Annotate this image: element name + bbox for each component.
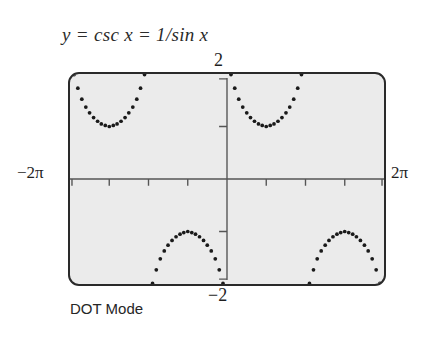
- data-point: [249, 116, 253, 120]
- x-axis-max-label: 2π: [391, 163, 408, 183]
- data-point: [190, 231, 194, 235]
- data-point: [205, 243, 209, 247]
- data-point: [296, 86, 300, 90]
- data-point: [323, 243, 327, 247]
- data-point: [186, 230, 190, 234]
- data-point: [166, 243, 170, 247]
- data-point: [88, 111, 92, 115]
- data-point: [264, 125, 268, 129]
- data-point: [213, 257, 217, 261]
- data-point: [272, 122, 276, 126]
- data-point: [115, 122, 119, 126]
- data-point: [260, 124, 264, 128]
- data-point: [229, 74, 233, 76]
- data-point: [111, 124, 115, 128]
- data-point: [217, 268, 221, 272]
- data-point: [92, 116, 96, 120]
- data-point: [257, 122, 261, 126]
- data-point: [198, 235, 202, 239]
- series-1: [151, 230, 225, 284]
- data-point: [315, 257, 319, 261]
- data-point: [72, 74, 76, 76]
- data-point: [162, 249, 166, 253]
- data-point: [182, 231, 186, 235]
- data-point: [359, 239, 363, 243]
- data-point: [96, 119, 100, 123]
- data-point: [370, 257, 374, 261]
- data-point: [194, 232, 198, 236]
- data-point: [151, 282, 155, 284]
- data-point: [139, 86, 143, 90]
- data-point: [221, 282, 225, 284]
- data-point: [233, 86, 237, 90]
- data-point: [99, 122, 103, 126]
- data-point: [241, 105, 245, 109]
- plot-area: [70, 74, 384, 284]
- data-point: [347, 231, 351, 235]
- data-point: [268, 124, 272, 128]
- data-point: [374, 268, 378, 272]
- y-axis-min-label: −2: [208, 285, 227, 306]
- data-point: [84, 105, 88, 109]
- data-point: [158, 257, 162, 261]
- data-point: [135, 97, 139, 101]
- x-axis-min-text: −2π: [17, 163, 44, 182]
- data-point: [245, 111, 249, 115]
- figure-container: y = csc x = 1/sin x −2π 2π 2 −2 DOT Mode: [0, 0, 435, 338]
- data-point: [343, 230, 347, 234]
- data-point: [237, 97, 241, 101]
- mode-caption: DOT Mode: [70, 300, 143, 317]
- data-point: [366, 249, 370, 253]
- data-point: [288, 105, 292, 109]
- data-point: [292, 97, 296, 101]
- data-point: [123, 116, 127, 120]
- data-point: [178, 232, 182, 236]
- data-point: [276, 119, 280, 123]
- data-point: [363, 243, 367, 247]
- data-point: [284, 111, 288, 115]
- calculator-screen: [68, 72, 386, 286]
- data-point: [327, 239, 331, 243]
- data-point: [253, 119, 257, 123]
- data-point: [107, 125, 111, 129]
- series-2: [229, 74, 303, 128]
- data-point: [103, 124, 107, 128]
- data-point: [143, 74, 147, 76]
- figure-title: y = csc x = 1/sin x: [62, 24, 208, 46]
- data-point: [209, 249, 213, 253]
- data-point: [131, 105, 135, 109]
- data-point: [119, 119, 123, 123]
- data-point: [335, 232, 339, 236]
- x-axis-min-label: −2π: [17, 163, 44, 183]
- data-point: [127, 111, 131, 115]
- data-point: [312, 268, 316, 272]
- data-point: [308, 282, 312, 284]
- data-point: [319, 249, 323, 253]
- y-axis-max-label: 2: [214, 50, 223, 71]
- data-point: [280, 116, 284, 120]
- data-point: [339, 231, 343, 235]
- plot-svg: [70, 74, 384, 284]
- data-point: [80, 97, 84, 101]
- series-3: [308, 230, 382, 284]
- data-point: [202, 239, 206, 243]
- data-point: [154, 268, 158, 272]
- series-0: [72, 74, 146, 128]
- data-point: [300, 74, 304, 76]
- x-axis-max-text: 2π: [391, 163, 408, 182]
- data-point: [355, 235, 359, 239]
- data-point: [378, 282, 382, 284]
- data-point: [351, 232, 355, 236]
- data-point: [76, 86, 80, 90]
- data-point: [331, 235, 335, 239]
- data-point: [170, 239, 174, 243]
- data-point: [174, 235, 178, 239]
